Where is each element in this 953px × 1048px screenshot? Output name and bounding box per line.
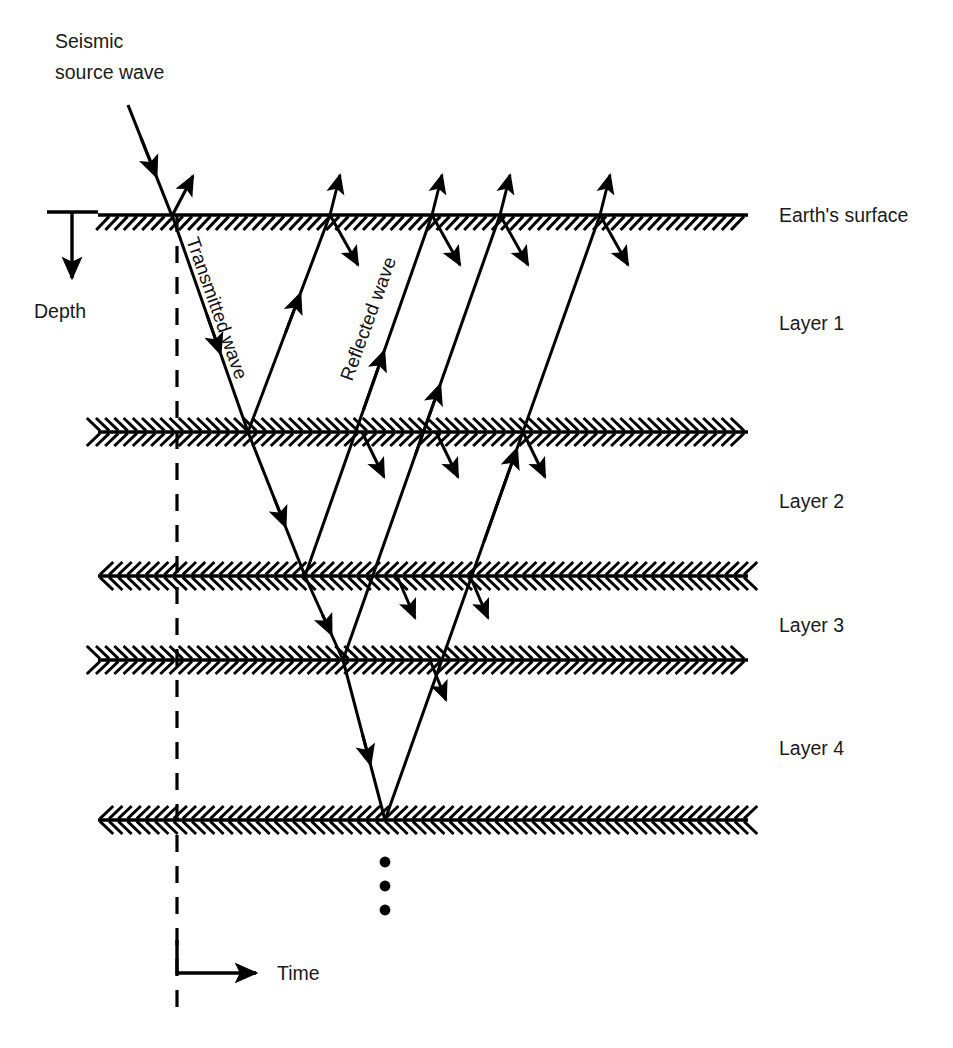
ray-transmitted-leg-1 <box>172 215 248 432</box>
interface-0 <box>96 215 748 230</box>
up-arrow-2 <box>432 175 442 215</box>
ellipsis-dot-1 <box>380 881 391 892</box>
interface-1 <box>87 418 748 446</box>
figure-canvas: Seismic source wave Depth Time Transmitt… <box>0 0 953 1048</box>
source-label-line2: source wave <box>55 61 164 83</box>
earth-surface-label: Earth's surface <box>779 204 908 226</box>
layer-label-1: Layer 1 <box>779 312 844 334</box>
depth-axis-label: Depth <box>34 300 86 322</box>
interfaces-group <box>87 215 758 834</box>
source-surface-reflection-ray <box>172 176 193 216</box>
ray-reflected-leg-4-up <box>385 215 600 820</box>
ray-direction-arrow <box>322 615 327 627</box>
ellipsis-dot-2 <box>380 905 391 916</box>
ray-direction-arrow <box>274 498 282 518</box>
transmitted-wave-label: Transmitted wave <box>182 234 252 382</box>
up-arrow-3 <box>500 175 510 215</box>
up-arrow-4 <box>600 175 610 215</box>
stub-surface-b4 <box>600 215 628 265</box>
time-axis <box>177 940 256 975</box>
source-label-line1: Seismic <box>55 30 124 52</box>
seismic-source-ray <box>128 105 193 216</box>
time-axis-label: Time <box>277 962 320 984</box>
layer-label-3: Layer 3 <box>779 614 844 636</box>
ray-paths-group <box>172 215 600 820</box>
depth-axis <box>47 212 98 278</box>
ray-reflected-leg-1-up <box>248 215 330 432</box>
ray-direction-arrow <box>484 457 514 542</box>
stub-surface-b3 <box>500 215 528 265</box>
interface-3 <box>87 646 748 674</box>
layer-label-2: Layer 2 <box>779 490 844 512</box>
stub-surface-b2 <box>432 215 460 265</box>
layer-labels-group: Layer 1Layer 2Layer 3Layer 4 <box>779 312 844 759</box>
stub-iface2-b1 <box>397 576 415 618</box>
ellipsis-dot-0 <box>380 857 391 868</box>
layer-label-4: Layer 4 <box>779 737 844 759</box>
ellipsis-dots <box>380 857 391 916</box>
ray-reflected-leg-2-up <box>305 215 432 576</box>
ray-direction-arrow <box>286 302 297 332</box>
ray-transmitted-leg-2 <box>248 432 305 576</box>
stub-iface2-b2 <box>470 576 488 618</box>
ray-transmitted-leg-4 <box>343 660 385 820</box>
interface-4 <box>98 806 757 834</box>
up-arrow-1 <box>330 175 340 215</box>
ray-direction-arrow <box>363 359 381 410</box>
ray-direction-arrow <box>362 734 368 756</box>
interface-2 <box>98 562 757 590</box>
source-incident-arrowhead <box>141 138 153 168</box>
seismic-raypath-diagram: Seismic source wave Depth Time Transmitt… <box>0 0 953 1048</box>
reflected-wave-label: Reflected wave <box>336 254 400 383</box>
